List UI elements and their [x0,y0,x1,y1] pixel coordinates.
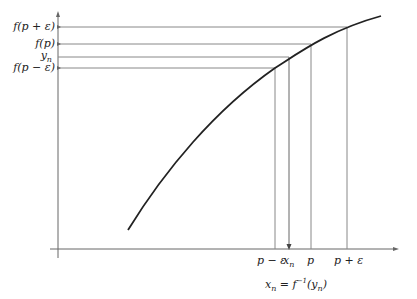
cap-eq: = f [276,278,296,291]
label-f-p-plus: f(p + ε) [0,21,55,32]
cap-sup: −1 [297,277,307,285]
label-f-p: f(p) [0,38,55,49]
tick-icon [57,42,61,46]
label-f-p-minus: f(p − ε) [0,62,55,73]
tick-icon [57,25,61,29]
label-x-n: xn [283,255,294,269]
label-p: p [307,255,314,266]
cap-close: ) [323,278,327,291]
function-curve [128,16,381,230]
tick-icon [57,66,61,70]
x-n-subscript: n [289,260,294,269]
y-axis-arrow-icon [56,11,60,17]
caption-inverse: xn = f−1(yn) [265,278,327,293]
label-p-plus: p + ε [334,255,363,266]
cap-y: (y [307,278,318,291]
inverse-function-diagram: f(p + ε) f(p) yn f(p − ε) p − ε xn p p +… [0,0,417,299]
label-p-minus: p − ε [257,255,286,266]
x-axis-arrow-icon [393,247,399,251]
